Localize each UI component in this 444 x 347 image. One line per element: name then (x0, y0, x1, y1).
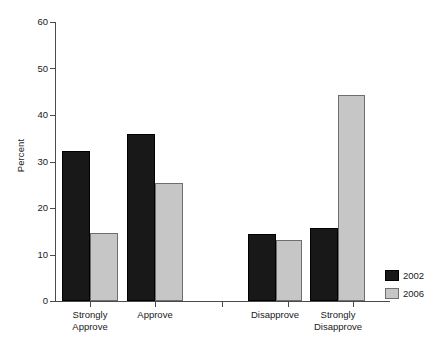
x-tick-mark-3 (222, 302, 223, 307)
bar-strongly-disapprove-2006 (338, 95, 365, 301)
x-axis-label-approve: Approve (115, 309, 195, 321)
legend-label-2002: 2002 (403, 270, 424, 281)
bar-approve-2006 (155, 183, 183, 301)
y-tick-label-30: 30 (26, 157, 48, 167)
bar-strongly-approve-2002 (62, 151, 90, 301)
bar-strongly-approve-2006 (90, 233, 118, 301)
x-tick-mark-5 (353, 302, 354, 307)
legend-label-2006: 2006 (403, 288, 424, 299)
legend-item-2002: 2002 (385, 268, 441, 283)
x-tick-mark-1 (90, 302, 91, 307)
legend-swatch-2006-icon (385, 288, 399, 299)
bar-disapprove-2006 (276, 240, 302, 301)
y-tick-label-40: 40 (26, 110, 48, 120)
bar-chart: Percent 60 50 40 30 20 10 0 Strongly App… (0, 0, 444, 347)
bar-disapprove-2002 (248, 234, 276, 301)
y-tick-label-60: 60 (26, 17, 48, 27)
chart-legend: 2002 2006 (385, 268, 441, 304)
x-tick-mark-2 (155, 302, 156, 307)
bar-approve-2002 (127, 134, 155, 301)
bar-strongly-disapprove-2002 (310, 228, 338, 301)
y-axis-title: Percent (15, 116, 26, 196)
legend-item-2006: 2006 (385, 286, 441, 301)
y-tick-label-0: 0 (26, 296, 48, 306)
x-axis-label-strongly-disapprove: Strongly Disapprove (298, 309, 378, 332)
y-axis-line (55, 22, 56, 302)
y-tick-label-50: 50 (26, 64, 48, 74)
y-tick-label-20: 20 (26, 203, 48, 213)
y-tick-label-10: 10 (26, 250, 48, 260)
x-tick-mark-4 (288, 302, 289, 307)
legend-swatch-2002-icon (385, 270, 399, 281)
